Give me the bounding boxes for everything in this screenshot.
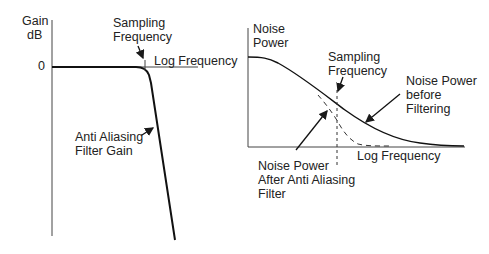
left-y-axis-label-line1: Gain: [22, 15, 48, 28]
noise-before-arrow: [366, 94, 400, 122]
right-y-axis-label-line1: Noise: [253, 23, 285, 36]
right-sampling-label-line1: Sampling: [328, 51, 380, 64]
right-sampling-label-line2: Frequency: [328, 65, 387, 78]
left-x-axis-label: Log Frequency: [154, 55, 237, 68]
noise-after-label-line1: Noise Power: [258, 160, 329, 173]
noise-after-label-line3: Filter: [258, 188, 286, 201]
right-y-axis-label-line2: Power: [253, 37, 288, 50]
filter-gain-label-line2: Filter Gain: [75, 145, 133, 158]
right-x-axis-label: Log Frequency: [357, 150, 440, 163]
left-y-axis-label-line2: dB: [27, 29, 42, 42]
noise-before-label-line2: before: [406, 89, 441, 102]
left-sampling-label-line2: Frequency: [113, 31, 172, 44]
noise-after-label-line2: After Anti Aliasing: [258, 174, 355, 187]
noise-before-label-line3: Filtering: [406, 103, 450, 116]
noise-after-curve: [318, 95, 390, 146]
noise-before-label-line1: Noise Power: [406, 75, 477, 88]
left-sampling-label-line1: Sampling: [113, 17, 165, 30]
right-sampling-arrow: [338, 77, 343, 91]
zero-tick-label: 0: [38, 60, 45, 73]
diagram-canvas: [0, 0, 489, 254]
left-sampling-arrow: [138, 46, 143, 58]
filter-gain-arrow: [142, 128, 153, 135]
filter-gain-label-line1: Anti Aliasing: [75, 131, 143, 144]
noise-after-arrow: [296, 111, 327, 150]
